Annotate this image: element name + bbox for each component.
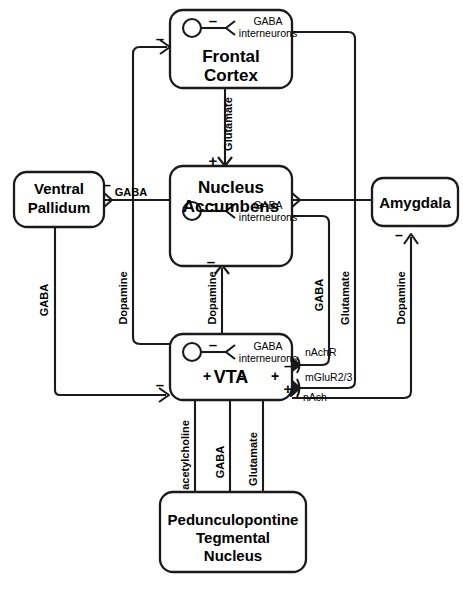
sign-fc-interneuron: – bbox=[209, 12, 217, 29]
sign-nacc-input-top: + bbox=[209, 152, 218, 169]
line-vp-to-vta bbox=[55, 216, 166, 395]
label-nacc-to-vta-transmitter: GABA bbox=[313, 279, 325, 311]
label-vta-receptor-2-top: mGluR2/3 bbox=[305, 371, 352, 383]
label-nacc-interneuron-line1: GABA bbox=[253, 199, 282, 211]
line-fc-to-vta bbox=[292, 32, 355, 388]
label-ppt-ach-transmitter: acetylcholine bbox=[179, 420, 191, 490]
sign-ppt-gaba: – bbox=[238, 368, 246, 384]
label-vta-interneuron-line1: GABA bbox=[253, 340, 282, 352]
label-frontal-cortex-line1: Frontal bbox=[202, 47, 260, 66]
sign-ppt-glu: + bbox=[271, 368, 279, 384]
label-vta-to-nacc-transmitter: Dopamine bbox=[206, 271, 218, 324]
diagram-canvas: Frontal Cortex GABA interneurons – – Nuc… bbox=[0, 0, 463, 591]
label-ppt-glu-transmitter: Glutamate bbox=[247, 432, 259, 486]
label-ppt-line3: Nucleus bbox=[204, 547, 262, 564]
sign-nacc-output-bottom: – bbox=[207, 253, 215, 270]
sign-nacc-interneuron: – bbox=[209, 195, 217, 212]
sign-vta-input-left: – bbox=[156, 376, 164, 393]
label-frontal-cortex-line2: Cortex bbox=[204, 66, 258, 85]
sign-vta-receptor-1: – bbox=[284, 358, 292, 374]
sign-ppt-ach: + bbox=[203, 368, 211, 384]
label-ventral-pallidum-line1: Ventral bbox=[34, 180, 84, 197]
label-vp-to-nacc-transmitter: GABA bbox=[115, 186, 147, 198]
label-ventral-pallidum-line2: Pallidum bbox=[28, 199, 91, 216]
label-fc-to-vta-transmitter: Glutamate bbox=[339, 271, 351, 325]
label-ppt-line2: Tegmental bbox=[196, 529, 270, 546]
label-ppt-line1: Pedunculopontine bbox=[168, 511, 299, 528]
label-ppt-gaba-transmitter: GABA bbox=[214, 446, 226, 478]
sign-amygdala-output: – bbox=[395, 227, 403, 243]
label-amygdala: Amygdala bbox=[379, 194, 451, 211]
text-labels: Frontal Cortex GABA interneurons – – Nuc… bbox=[28, 12, 452, 564]
label-fc-to-nacc-transmitter: Glutamate bbox=[222, 97, 234, 151]
sign-vta-interneuron: – bbox=[209, 336, 217, 353]
label-vta-receptor-1: nAchR bbox=[305, 346, 337, 358]
sign-vta-receptor-2: + bbox=[284, 380, 293, 397]
sign-vp-output: – bbox=[103, 177, 111, 193]
circuit-diagram: Frontal Cortex GABA interneurons – – Nuc… bbox=[0, 0, 463, 591]
label-vp-to-vta-transmitter: GABA bbox=[38, 284, 50, 316]
label-fc-interneuron-line2: interneurons bbox=[239, 27, 297, 39]
sign-fc-input: – bbox=[156, 30, 164, 47]
label-nacc-interneuron-line2: interneurons bbox=[239, 211, 297, 223]
label-vta-to-fc-transmitter: Dopamine bbox=[117, 271, 129, 324]
label-fc-interneuron-line1: GABA bbox=[253, 15, 282, 27]
label-vta-receptor-2-bottom: nAch bbox=[303, 391, 327, 403]
node-boxes bbox=[14, 10, 458, 572]
label-vta-to-amygdala-transmitter: Dopamine bbox=[395, 271, 407, 324]
